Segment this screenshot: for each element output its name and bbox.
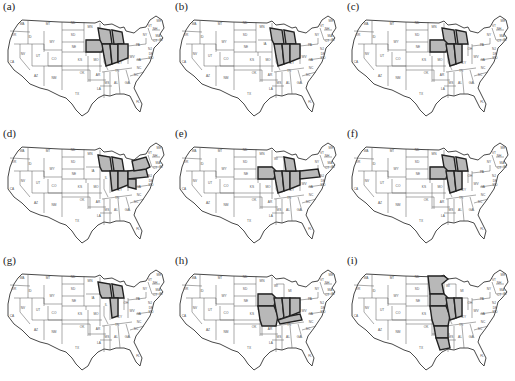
state-label-nj: NJ <box>320 301 324 305</box>
state-label-nd: ND <box>71 21 76 25</box>
state-label-ut: UT <box>380 181 384 185</box>
state-label-vt: VT <box>320 24 324 28</box>
state-label-vt: VT <box>492 151 496 155</box>
state-label-fl: FL <box>308 354 312 358</box>
state-label-nh: NH <box>153 154 158 158</box>
state-label-sd: SD <box>71 287 76 291</box>
state-label-sc: SC <box>478 327 483 331</box>
state-label-fl: FL <box>480 354 484 358</box>
state-label-az: AZ <box>206 74 210 78</box>
state-label-ar: AR <box>268 200 273 204</box>
state-label-nd: ND <box>415 21 420 25</box>
state-label-nh: NH <box>497 27 502 31</box>
state-label-nj: NJ <box>320 47 324 51</box>
highlighted-state-mi <box>112 30 124 44</box>
state-label-md: MD <box>149 56 155 60</box>
state-label-mn: MN <box>88 279 94 283</box>
state-label-ks: KS <box>78 58 82 62</box>
highlighted-state-in <box>110 44 118 64</box>
map-panel-d: (d) WAORCAIDNVMTWYUTAZCONMNDSDNEKSOKTXMN… <box>0 127 172 254</box>
state-label-nd: ND <box>415 148 420 152</box>
highlighted-state-pa <box>300 169 320 179</box>
map-panel-f: (f) WAORCAIDNVMTWYUTAZCONMNDSDNEKSOKTXMN… <box>344 127 515 254</box>
state-label-nm: NM <box>396 330 401 334</box>
state-label-md: MD <box>493 56 499 60</box>
state-label-wy: WY <box>49 40 55 44</box>
state-label-ut: UT <box>208 308 212 312</box>
state-label-az: AZ <box>378 74 382 78</box>
state-label-fl: FL <box>308 227 312 231</box>
us-map: WAORCAIDNVMTWYUTAZCONMNDSDNEKSOKTXMNIAMO… <box>344 254 515 381</box>
state-label-al: AL <box>114 335 118 339</box>
state-label-ms: MS <box>277 335 282 339</box>
state-label-ri: RI <box>503 38 506 42</box>
state-label-ar: AR <box>96 73 101 77</box>
state-label-nm: NM <box>52 330 57 334</box>
state-label-wa: WA <box>363 276 369 280</box>
highlighted-state-oh <box>290 44 300 62</box>
state-label-ct: CT <box>153 39 157 43</box>
state-label-tn: TN <box>459 323 464 327</box>
highlighted-state-ar <box>434 326 448 338</box>
state-label-co: CO <box>224 311 229 315</box>
state-label-co: CO <box>396 57 401 61</box>
state-label-tn: TN <box>115 196 120 200</box>
state-label-az: AZ <box>34 328 38 332</box>
highlighted-state-in <box>282 44 290 64</box>
state-label-me: ME <box>501 146 506 150</box>
highlighted-state-mi <box>112 157 124 171</box>
state-label-md: MD <box>149 183 155 187</box>
highlighted-state-in <box>454 298 462 318</box>
state-label-md: MD <box>493 183 499 187</box>
state-label-ks: KS <box>422 312 426 316</box>
state-label-vt: VT <box>148 278 152 282</box>
state-label-nj: NJ <box>492 301 496 305</box>
state-label-nh: NH <box>497 154 502 158</box>
state-label-ut: UT <box>36 54 40 58</box>
state-label-sd: SD <box>243 33 248 37</box>
highlighted-state-in <box>282 171 290 191</box>
state-label-wi: WI <box>274 157 278 161</box>
state-label-me: ME <box>157 19 162 23</box>
state-label-wa: WA <box>19 276 25 280</box>
highlighted-state-in <box>110 298 118 318</box>
state-label-al: AL <box>114 208 118 212</box>
state-label-nj: NJ <box>148 301 152 305</box>
state-label-vt: VT <box>148 151 152 155</box>
state-label-co: CO <box>224 184 229 188</box>
state-label-nd: ND <box>71 148 76 152</box>
highlighted-state-wv <box>128 179 136 189</box>
state-label-wi: WI <box>274 284 278 288</box>
state-label-ri: RI <box>159 165 162 169</box>
state-label-sc: SC <box>478 200 483 204</box>
state-label-wi: WI <box>446 284 450 288</box>
state-label-ar: AR <box>268 73 273 77</box>
state-label-ar: AR <box>440 200 445 204</box>
state-label-nc: NC <box>481 193 486 197</box>
state-label-sc: SC <box>306 73 311 77</box>
state-label-mt: MT <box>46 149 51 153</box>
highlighted-state-mi <box>456 157 468 171</box>
us-map: WAORCAIDNVMTWYUTAZCONMNDSDNEKSOKTXMNIAMO… <box>0 127 172 254</box>
state-label-ct: CT <box>153 166 157 170</box>
state-label-or: OR <box>12 33 17 37</box>
state-label-sd: SD <box>71 33 76 37</box>
state-label-nm: NM <box>396 203 401 207</box>
state-label-az: AZ <box>206 201 210 205</box>
state-label-oh: OH <box>124 301 129 305</box>
state-label-or: OR <box>356 160 361 164</box>
state-label-nd: ND <box>415 275 420 279</box>
state-label-co: CO <box>396 311 401 315</box>
state-label-wa: WA <box>191 149 197 153</box>
state-label-mn: MN <box>432 25 438 29</box>
state-label-nh: NH <box>325 281 330 285</box>
state-label-sc: SC <box>306 200 311 204</box>
state-label-nh: NH <box>153 27 158 31</box>
state-label-nd: ND <box>243 21 248 25</box>
state-label-sc: SC <box>134 200 139 204</box>
state-label-mo: MO <box>265 185 271 189</box>
state-label-co: CO <box>396 184 401 188</box>
state-label-mt: MT <box>218 149 223 153</box>
state-label-nc: NC <box>309 320 314 324</box>
state-label-fl: FL <box>136 100 140 104</box>
